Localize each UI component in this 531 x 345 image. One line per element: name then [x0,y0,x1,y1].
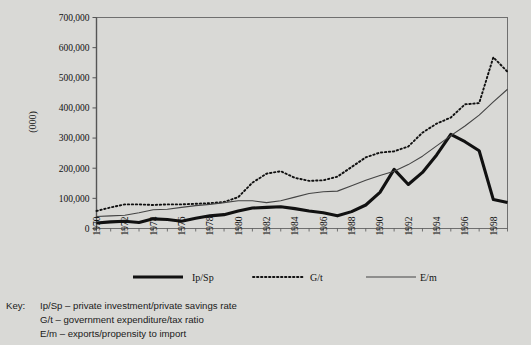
chart-figure: 0100,000200,000300,000400,000500,000600,… [0,0,531,345]
plot-frame [97,18,508,229]
x-tick-label: 1992 [404,216,414,235]
x-tick-label: 1978 [205,216,215,235]
key-block: Key: Ip/Sp – private investment/private … [6,299,426,341]
x-tick-label: 1990 [375,216,385,235]
y-axis-tick-labels: 0100,000200,000300,000400,000500,000600,… [59,13,97,234]
legend-label-ipsp: Ip/Sp [192,272,214,283]
y-tick-label: 500,000 [59,73,90,83]
key-definition-gt: G/t – government expenditure/tax ratio [40,313,426,327]
series-line-gt [97,57,508,211]
y-tick-label: 0 [85,224,90,234]
y-tick-label: 200,000 [59,164,90,174]
key-spacer [6,327,40,341]
x-tick-label: 1986 [319,216,329,235]
key-definition-em: E/m – exports/propensity to import [40,327,426,341]
x-tick-label: 1970 [92,216,102,235]
key-definition-ipsp: Ip/Sp – private investment/private savin… [40,299,426,313]
key-row: E/m – exports/propensity to import [6,327,426,341]
x-tick-label: 1998 [489,216,499,235]
chart-legend: Ip/SpG/tE/m [133,272,437,283]
legend-label-gt: G/t [310,272,323,283]
key-row: G/t – government expenditure/tax ratio [6,313,426,327]
y-tick-label: 400,000 [59,103,90,113]
y-tick-label: 100,000 [59,194,90,204]
key-row: Key: Ip/Sp – private investment/private … [6,299,426,313]
x-tick-label: 1996 [460,216,470,235]
y-tick-label: 700,000 [59,13,90,23]
x-tick-label: 1972 [120,216,130,235]
x-tick-label: 1980 [234,216,244,235]
x-tick-label: 1982 [262,216,272,235]
series-line-em [97,89,508,216]
key-spacer [6,313,40,327]
line-chart: 0100,000200,000300,000400,000500,000600,… [0,0,531,345]
key-heading: Key: [6,299,40,313]
x-tick-label: 1988 [347,216,357,235]
x-tick-label: 1994 [432,216,442,235]
y-tick-label: 600,000 [59,43,90,53]
y-axis-title: (000) [27,111,39,133]
y-tick-label: 300,000 [59,133,90,143]
legend-label-em: E/m [420,272,437,283]
series-layer [97,57,508,223]
x-tick-label: 1984 [290,216,300,235]
